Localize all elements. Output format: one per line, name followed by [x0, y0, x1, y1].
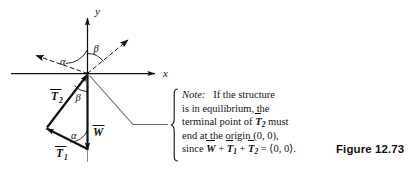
note-vec-T1-sub: 1 — [233, 147, 237, 156]
T2-base: T — [51, 90, 59, 102]
figure-container: x y α β β α T 2 T — [0, 0, 417, 177]
coordinate-axes — [11, 18, 155, 162]
note-line1-rest: If the structure — [213, 89, 275, 100]
vector-label-T2: T 2 — [50, 90, 63, 105]
W-base: W — [93, 126, 104, 138]
note-lead: Note: — [182, 89, 205, 100]
T1-subscript: 1 — [64, 153, 68, 162]
note-plus-1: + — [218, 143, 224, 154]
note-vec-T2-sub: 2 — [262, 120, 266, 129]
note-line-4: end at the origin (0, 0), — [182, 129, 296, 143]
beta-upper-arc — [88, 53, 104, 61]
note-text: Note: If the structure is in equilibrium… — [179, 88, 296, 162]
note-plus-2: + — [240, 143, 246, 154]
beta-lower-label: β — [75, 92, 82, 103]
note-line-2: is in equilibrium, the — [182, 102, 296, 116]
T2-subscript: 2 — [58, 96, 63, 105]
note-line3-a: terminal point of — [182, 116, 253, 127]
y-axis-label: y — [94, 5, 100, 17]
note-vec-T1: T — [227, 142, 233, 156]
x-axis-label: x — [162, 67, 168, 79]
note-callout: Note: If the structure is in equilibrium… — [170, 88, 342, 162]
note-vec-T2: T — [255, 115, 261, 129]
figure-caption: Figure 12.73 — [336, 143, 404, 155]
note-since: since — [182, 143, 204, 154]
vector-label-T1: T 1 — [55, 147, 68, 162]
note-equals: = ⟨0, 0⟩. — [261, 143, 296, 154]
note-line-1: Note: If the structure — [182, 88, 296, 102]
vector-label-W: W — [93, 126, 105, 138]
note-vec-W: W — [206, 142, 215, 156]
alpha-upper-arc — [66, 50, 88, 64]
alpha-upper-label: α — [60, 56, 66, 67]
note-line-3: terminal point of T2 must — [182, 115, 296, 129]
note-leader-line — [90, 76, 169, 125]
note-line-5: since W + T1 + T2 = ⟨0, 0⟩. — [182, 142, 296, 156]
beta-upper-label: β — [93, 43, 100, 54]
alpha-lower-label: α — [71, 130, 77, 141]
note-vec-T2b: T — [248, 142, 254, 156]
note-vec-T2b-sub: 2 — [254, 147, 258, 156]
curly-brace — [170, 88, 179, 162]
T1-base: T — [56, 147, 64, 159]
note-line3-b: must — [268, 116, 288, 127]
